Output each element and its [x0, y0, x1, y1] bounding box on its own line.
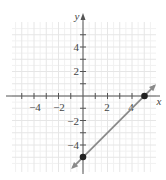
- x-tick-label: −4: [29, 101, 41, 113]
- x-tick-label: 2: [104, 101, 110, 113]
- point-y-intercept: [80, 154, 87, 161]
- y-tick-label: −4: [67, 139, 79, 151]
- axes: [6, 13, 160, 174]
- y-tick-label: 2: [74, 65, 80, 77]
- y-tick-label: 4: [74, 41, 80, 53]
- x-axis-label: x: [156, 95, 162, 107]
- coordinate-plane: −4 −2 2 4 4 2 −2 −4 x y: [0, 0, 166, 180]
- y-axis-arrow-icon: [81, 13, 86, 20]
- y-axis-label: y: [74, 10, 80, 22]
- point-x-intercept: [141, 93, 148, 100]
- y-tick-label: −2: [67, 115, 79, 127]
- x-tick-label: −2: [53, 101, 65, 113]
